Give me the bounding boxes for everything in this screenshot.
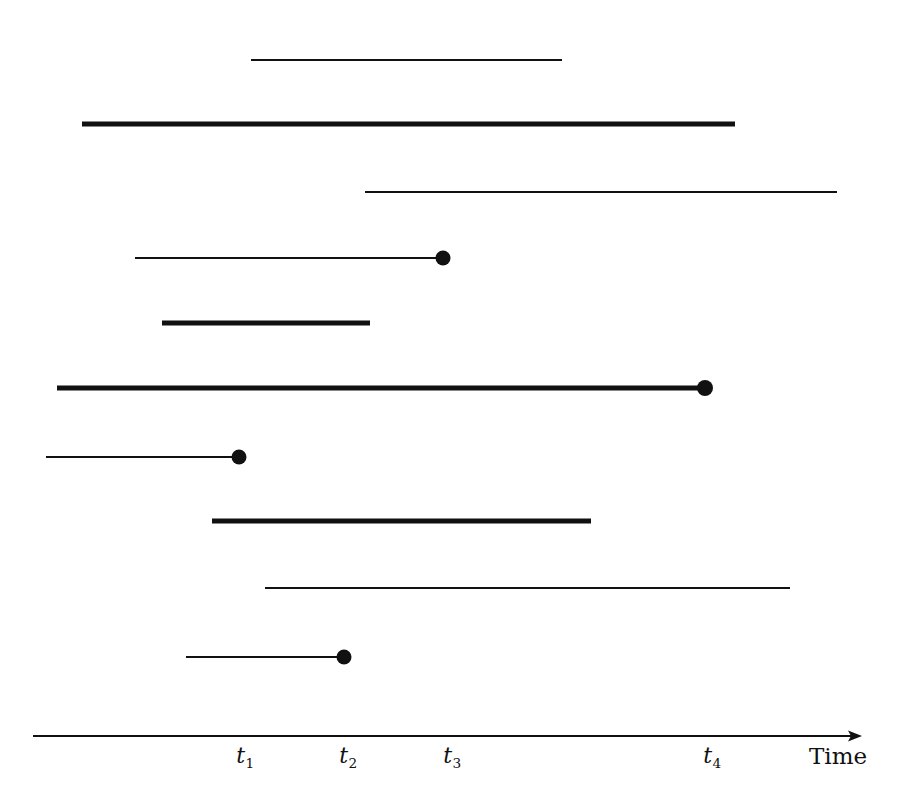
axis-tick-label-t4: t4 bbox=[703, 745, 721, 767]
interval-end-dot bbox=[697, 380, 713, 396]
interval-end-dot bbox=[337, 650, 352, 665]
tick-label-base: t bbox=[339, 743, 348, 768]
tick-label-base: t bbox=[236, 743, 245, 768]
axis-tick-label-t1: t1 bbox=[236, 745, 254, 767]
tick-label-base: t bbox=[443, 743, 452, 768]
time-axis-group bbox=[33, 731, 862, 742]
interval-end-dot bbox=[436, 251, 451, 266]
timeline-diagram: t1t2t3t4 Time bbox=[0, 0, 904, 811]
axis-title-time: Time bbox=[809, 745, 867, 768]
diagram-canvas bbox=[0, 0, 904, 811]
tick-label-subscript: 2 bbox=[349, 755, 358, 771]
axis-tick-label-t3: t3 bbox=[443, 745, 461, 767]
tick-label-base: t bbox=[703, 743, 712, 768]
interval-end-dot bbox=[232, 450, 247, 465]
tick-label-subscript: 4 bbox=[713, 755, 722, 771]
axis-tick-label-t2: t2 bbox=[339, 745, 357, 767]
tick-label-subscript: 3 bbox=[453, 755, 462, 771]
interval-lines-group bbox=[46, 60, 837, 665]
tick-label-subscript: 1 bbox=[246, 755, 255, 771]
